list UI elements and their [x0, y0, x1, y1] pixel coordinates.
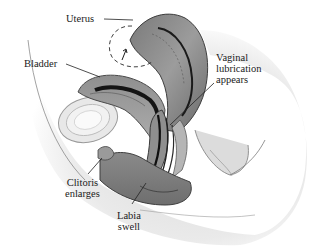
- label-clitoris: Clitoris enlarges: [65, 177, 100, 199]
- label-bladder: Bladder: [24, 58, 57, 69]
- rectum: [172, 120, 187, 178]
- label-labia: Labia swell: [117, 210, 141, 232]
- clitoris: [98, 147, 114, 161]
- leader-bladder: [66, 64, 100, 77]
- leader-uterus: [104, 19, 133, 20]
- label-uterus: Uterus: [66, 13, 94, 24]
- label-vaginal-lubrication: Vaginal lubrication appears: [216, 52, 262, 85]
- anatomy-illustration: [0, 0, 312, 249]
